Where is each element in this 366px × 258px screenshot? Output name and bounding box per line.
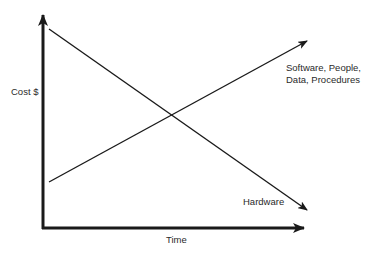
hardware-line <box>49 29 307 210</box>
hardware-label: Hardware <box>243 196 284 208</box>
software-label-line1: Software, People, <box>286 62 361 74</box>
software-people-line <box>49 41 307 182</box>
diagram-canvas <box>0 0 366 258</box>
y-axis-label: Cost $ <box>11 86 38 98</box>
x-axis-label: Time <box>166 234 187 246</box>
software-label-line2: Data, Procedures <box>286 74 360 86</box>
cost-over-time-diagram: Cost $ Time Hardware Software, People, D… <box>0 0 366 258</box>
